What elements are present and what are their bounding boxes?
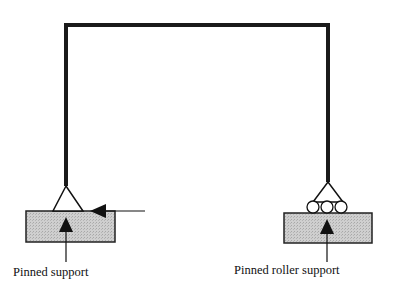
pinned-roller-support: Pinned roller support (234, 182, 372, 277)
pinned-support: Pinned support (13, 186, 145, 279)
pinned-support-label: Pinned support (13, 265, 89, 279)
frame-diagram: Pinned support Pinned roller support (0, 0, 400, 293)
pinned-roller-support-label: Pinned roller support (234, 263, 340, 277)
roller-pin-triangle-icon (313, 182, 343, 202)
pin-triangle-icon (53, 186, 83, 211)
portal-frame (66, 25, 328, 186)
rollers-icon (307, 201, 347, 213)
